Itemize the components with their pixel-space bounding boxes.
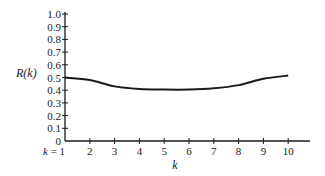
y-tick-label: 0.7 [47, 46, 61, 58]
x-tick-label: 6 [186, 145, 192, 157]
y-tick-label: 0.4 [47, 84, 61, 96]
x-tick-label: 10 [283, 145, 295, 157]
x-tick-label: 7 [211, 145, 217, 157]
y-tick-label: 0.8 [47, 33, 61, 45]
y-tick-label: 0.9 [47, 21, 61, 33]
x-tick-label: 3 [112, 145, 118, 157]
x-tick-label: 2 [87, 145, 93, 157]
y-axis-title: R(k) [15, 66, 37, 80]
x-tick-label: 9 [261, 145, 267, 157]
y-tick-label: 0.3 [47, 97, 61, 109]
y-tick-label: 0.5 [47, 72, 61, 84]
line-chart: 00.10.20.30.40.50.60.70.80.91.0 k = 1234… [0, 0, 325, 176]
y-tick-label: 0.2 [47, 110, 61, 122]
y-tick-label: 0.6 [47, 59, 61, 71]
x-tick-label: 8 [236, 145, 242, 157]
x-tick-label: 5 [161, 145, 167, 157]
series-line [65, 76, 288, 90]
plot-area [65, 76, 288, 90]
x-tick-label: 4 [137, 145, 143, 157]
x-axis: k = 12345678910 [43, 138, 310, 157]
x-tick-label: k = 1 [43, 145, 65, 157]
y-tick-label: 0.1 [47, 122, 61, 134]
y-axis: 00.10.20.30.40.50.60.70.80.91.0 [47, 8, 68, 147]
x-axis-title: k [172, 158, 178, 172]
y-tick-label: 1.0 [47, 8, 61, 20]
